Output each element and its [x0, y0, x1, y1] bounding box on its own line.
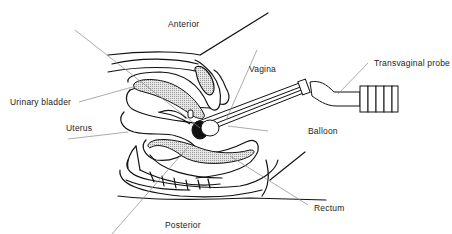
label-urinary-bladder: Urinary bladder	[10, 98, 71, 107]
urinary-bladder-shape	[133, 80, 204, 119]
label-balloon: Balloon	[308, 127, 338, 136]
label-anterior: Anterior	[168, 20, 199, 29]
label-rectum: Rectum	[314, 204, 345, 213]
diagram-drawing	[0, 0, 452, 234]
anatomy-diagram: Anterior Urinary bladder Uterus Vagina T…	[0, 0, 452, 234]
label-vagina: Vagina	[249, 65, 276, 74]
label-transvaginal-probe: Transvaginal probe	[374, 59, 450, 68]
label-posterior: Posterior	[165, 221, 201, 230]
anatomy-outline	[108, 13, 326, 200]
label-uterus: Uterus	[66, 124, 92, 133]
